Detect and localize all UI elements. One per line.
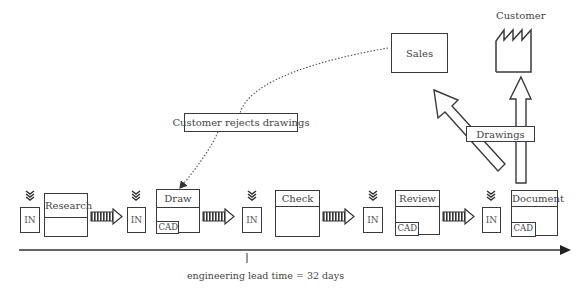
- cad-label: CAD: [395, 222, 419, 236]
- inventory-box: IN: [482, 207, 501, 233]
- push-arrow-icon: [91, 209, 122, 224]
- timeline-arrow: [19, 245, 571, 263]
- process-box-check: Check: [275, 190, 320, 237]
- process-box-review: Review CAD: [395, 190, 440, 235]
- customer-label: Customer: [496, 10, 532, 21]
- push-chevron-icon: [487, 191, 495, 200]
- feedback-label: Customer rejects drawings: [172, 117, 309, 128]
- inventory-label: IN: [246, 215, 257, 225]
- inventory-label: IN: [486, 215, 497, 225]
- cad-label: CAD: [511, 222, 536, 237]
- diagram-connectors: [0, 0, 576, 296]
- push-arrow-icon: [203, 209, 234, 224]
- process-title: Check: [276, 191, 319, 207]
- process-box-document: Document CAD: [511, 190, 558, 236]
- cad-label: CAD: [156, 221, 179, 234]
- drawings-label-box: Drawings: [466, 126, 535, 142]
- feedback-label-box: Customer rejects drawings: [184, 113, 298, 132]
- inventory-label: IN: [24, 215, 35, 225]
- push-chevron-icon: [132, 191, 140, 200]
- inventory-box: IN: [20, 207, 40, 233]
- feedback-dotted-curve: [240, 48, 388, 113]
- push-chevron-icon: [369, 191, 377, 200]
- push-arrow-icon: [443, 209, 474, 224]
- lead-time-label: engineering lead time = 32 days: [187, 270, 344, 281]
- sales-label: Sales: [406, 48, 433, 59]
- feedback-dotted-curve-lower: [180, 132, 218, 188]
- process-title: Review: [396, 191, 439, 207]
- push-chevron-icon: [26, 191, 34, 200]
- sales-box: Sales: [391, 33, 448, 73]
- inventory-box: IN: [363, 207, 383, 233]
- process-box-draw: Draw CAD: [156, 189, 200, 233]
- process-title: Research: [45, 194, 87, 218]
- drawings-label: Drawings: [476, 129, 525, 140]
- inventory-box: IN: [242, 207, 262, 233]
- process-box-research: Research: [44, 193, 88, 237]
- push-chevron-icon: [248, 191, 256, 200]
- push-arrow-icon: [323, 209, 354, 224]
- process-title: Draw: [157, 190, 199, 208]
- process-title: Document: [512, 191, 557, 207]
- inventory-label: IN: [367, 215, 378, 225]
- inventory-box: IN: [127, 207, 146, 233]
- inventory-label: IN: [131, 215, 142, 225]
- factory-icon: [496, 30, 531, 72]
